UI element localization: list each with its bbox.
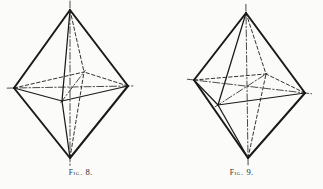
figure-9-caption-number: 9. [246,167,253,177]
figure-9-caption-word: Fig. [230,168,244,177]
figure-8-caption-word: Fig. [69,168,83,177]
figure-8-caption-number: 8. [85,167,92,177]
hidden-edge-top-back [246,13,266,74]
hidden-edge-left-back [194,74,266,80]
edge-bottom-left [194,80,248,158]
figure-8-caption: Fig. 8. [0,167,161,177]
figure-8-drawing [0,0,161,168]
figure-9-caption: Fig. 9. [161,167,322,177]
edge-left-front [194,80,218,105]
axis-left-right [7,86,135,88]
edge-top-front [218,13,246,105]
edge-top-left [14,10,70,88]
edge-bottom-front [218,105,248,158]
edge-bottom-right [248,93,305,158]
figure-plate: Fig. 8. Fig. 9. [0,0,323,189]
figure-9-container: Fig. 9. [161,0,322,189]
figure-8-container: Fig. 8. [0,0,161,189]
edge-left-front [14,88,62,101]
edge-top-right [70,10,128,86]
hidden-edge-bottom-back [70,72,84,158]
edge-top-left [194,13,246,80]
figure-9-drawing [161,0,322,168]
